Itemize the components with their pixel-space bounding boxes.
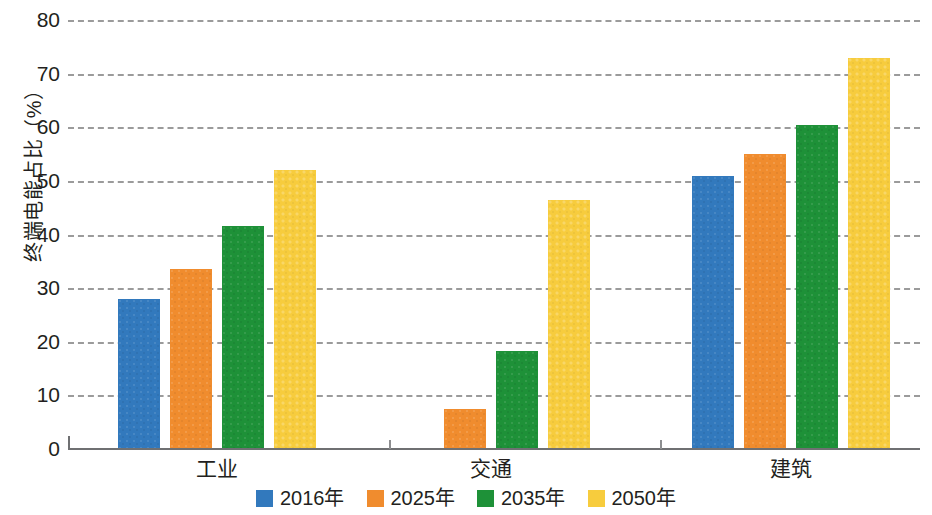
gridline (68, 181, 920, 183)
x-axis-category-label-2: 建筑 (711, 456, 871, 481)
y-axis-tick-label: 0 (14, 438, 60, 459)
bar-建筑-2016年 (692, 176, 734, 449)
bar-工业-2016年 (118, 299, 160, 449)
bar-fill (496, 351, 538, 449)
y-axis-line (68, 436, 70, 449)
legend-swatch-icon (477, 490, 494, 507)
bar-fill (170, 269, 212, 449)
bar-fill (692, 176, 734, 449)
legend-swatch-icon (588, 490, 605, 507)
y-axis-tick-label: 40 (14, 224, 60, 245)
y-axis-tick-label: 60 (14, 116, 60, 137)
bar-建筑-2050年 (848, 58, 890, 449)
bar-fill (848, 58, 890, 449)
y-axis-tick-label: 30 (14, 277, 60, 298)
bar-工业-2025年 (170, 269, 212, 449)
bar-fill (222, 226, 264, 449)
bar-建筑-2025年 (744, 154, 786, 449)
legend-item-2016年[interactable]: 2016年 (256, 488, 345, 508)
legend-item-2035年[interactable]: 2035年 (477, 488, 566, 508)
y-axis-tick-label: 50 (14, 170, 60, 191)
bar-chart: 终端电能占比（%） 01020304050607080 工业交通建筑 2016年… (0, 0, 932, 515)
bar-工业-2050年 (274, 170, 316, 449)
bar-fill (744, 154, 786, 449)
x-axis-category-label-0: 工业 (137, 456, 297, 481)
gridline (68, 20, 920, 22)
bar-fill (274, 170, 316, 449)
bar-fill (796, 125, 838, 449)
legend-label: 2035年 (501, 488, 566, 508)
legend-item-2025年[interactable]: 2025年 (367, 488, 456, 508)
legend-swatch-icon (367, 490, 384, 507)
bar-工业-2035年 (222, 226, 264, 449)
bar-建筑-2035年 (796, 125, 838, 449)
y-axis-tick-label: 10 (14, 384, 60, 405)
gridline (68, 74, 920, 76)
bar-交通-2035年 (496, 351, 538, 449)
y-axis-tick-label: 80 (14, 9, 60, 30)
chart-legend: 2016年2025年2035年2050年 (0, 488, 932, 508)
y-axis-tick-label: 70 (14, 63, 60, 84)
bar-fill (548, 200, 590, 449)
legend-label: 2016年 (280, 488, 345, 508)
legend-item-2050年[interactable]: 2050年 (588, 488, 677, 508)
gridline (68, 127, 920, 129)
plot-area (68, 20, 920, 449)
bar-fill (118, 299, 160, 449)
x-axis-category-label-1: 交通 (411, 456, 571, 481)
legend-swatch-icon (256, 490, 273, 507)
y-axis-tick-label: 20 (14, 331, 60, 352)
x-axis-line (68, 448, 920, 450)
bar-交通-2025年 (444, 409, 486, 449)
legend-label: 2050年 (612, 488, 677, 508)
x-axis-tick (389, 440, 391, 449)
gridline (68, 235, 920, 237)
legend-label: 2025年 (391, 488, 456, 508)
bar-fill (444, 409, 486, 449)
x-axis-tick (660, 440, 662, 449)
bar-交通-2050年 (548, 200, 590, 449)
